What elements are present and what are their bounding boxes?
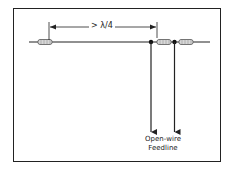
insulator-left-icon bbox=[38, 40, 52, 45]
insulator-right-icon bbox=[179, 40, 193, 45]
feedline-label: Open-wire Feedline bbox=[138, 135, 188, 153]
dimension-arrow-right-icon bbox=[150, 25, 156, 30]
dimension-arrow-left-icon bbox=[50, 25, 56, 30]
dimension-label: > λ/4 bbox=[89, 21, 115, 31]
feedline-label-line1: Open-wire bbox=[138, 135, 188, 144]
feedline-label-line2: Feedline bbox=[138, 144, 188, 153]
antenna-diagram bbox=[0, 0, 232, 170]
insulator-center-icon bbox=[157, 40, 171, 45]
